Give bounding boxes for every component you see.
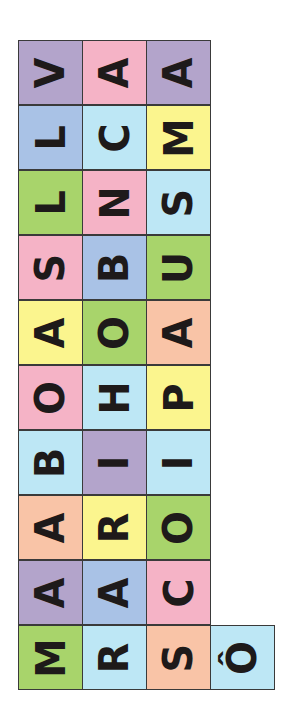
grid-row-9: A A C [18,560,274,625]
cell-letter: O [94,315,134,349]
grid-cell: L [18,170,83,235]
grid-cell: B [18,430,83,495]
cell-letter: A [95,57,135,88]
grid-cell: R [82,625,147,690]
cell-letter: A [31,577,71,608]
cell-letter: B [95,252,135,283]
grid-cell: O [82,300,147,365]
grid-cell: I [146,430,211,495]
grid-cell: A [146,40,211,105]
grid-cell: I [82,430,147,495]
cell-letter: O [158,510,198,544]
grid-cell: M [18,625,83,690]
grid-row-1: V A A [18,40,274,105]
grid-cell: A [18,300,83,365]
grid-cell: P [146,365,211,430]
grid-row-8: A R O [18,495,274,560]
cell-letter: R [95,642,135,673]
grid-cell: H [82,365,147,430]
grid-row-2: L C M [18,105,274,170]
cell-letter: O [30,380,70,414]
grid-cell-extra: Ô [210,625,275,690]
grid-cell: S [18,235,83,300]
cell-letter: A [31,512,71,543]
cell-letter: C [94,123,134,152]
grid-cell: A [18,495,83,560]
grid-cell: V [18,40,83,105]
cell-letter: A [159,57,199,88]
cell-letter: A [95,577,135,608]
grid-cell: U [146,235,211,300]
cell-letter: C [158,578,198,607]
cell-letter: P [158,383,198,412]
letter-grid: V A A L C M L N S S B U A O A O H P B I … [18,40,274,690]
cell-letter: Ô [222,640,262,674]
cell-letter: U [158,251,198,283]
grid-cell: A [18,560,83,625]
cell-letter: M [31,638,71,678]
cell-letter: L [31,190,71,216]
cell-letter: N [94,186,134,219]
grid-cell: C [146,560,211,625]
cell-letter: R [95,512,135,543]
cell-letter: S [159,643,199,672]
cell-letter: A [159,317,199,348]
grid-cell: L [18,105,83,170]
cell-letter: L [31,125,71,151]
cell-letter: S [31,253,71,282]
grid-cell: B [82,235,147,300]
grid-cell: N [82,170,147,235]
cell-letter: S [159,188,199,217]
grid-cell: A [82,40,147,105]
grid-cell: S [146,625,211,690]
grid-cell: S [146,170,211,235]
grid-row-7: B I I [18,430,274,495]
cell-letter: M [159,118,199,158]
grid-row-5: A O A [18,300,274,365]
grid-cell: O [146,495,211,560]
grid-cell: A [146,300,211,365]
cell-letter: B [31,447,71,478]
cell-letter: V [31,57,71,88]
grid-row-6: O H P [18,365,274,430]
cell-letter: H [94,381,134,414]
cell-letter: A [31,317,71,348]
grid-cell: O [18,365,83,430]
grid-cell: A [82,560,147,625]
cell-letter: I [158,455,198,470]
grid-row-4: S B U [18,235,274,300]
grid-row-3: L N S [18,170,274,235]
grid-cell: R [82,495,147,560]
grid-cell: M [146,105,211,170]
cell-letter: I [94,455,134,470]
grid-cell: C [82,105,147,170]
grid-row-10: M R S Ô [18,625,274,690]
